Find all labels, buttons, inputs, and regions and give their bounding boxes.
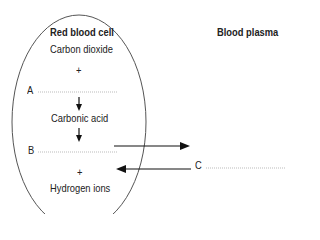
label-b: B xyxy=(28,144,34,156)
carbonic-acid-label: Carbonic acid xyxy=(51,112,108,124)
arrowhead-icon xyxy=(116,165,126,173)
arrowhead-icon xyxy=(76,104,82,111)
label-c: C xyxy=(195,159,202,171)
plasma-title: Blood plasma xyxy=(217,26,278,38)
arrowhead-icon xyxy=(180,142,190,150)
label-a: A xyxy=(27,84,33,96)
plus-sign: + xyxy=(76,64,81,76)
plus-sign: + xyxy=(77,166,82,178)
cell-title: Red blood cell xyxy=(50,26,114,38)
hydrogen-ions-label: Hydrogen ions xyxy=(50,182,110,194)
arrowhead-icon xyxy=(76,135,82,142)
carbon-dioxide-label: Carbon dioxide xyxy=(50,43,113,55)
